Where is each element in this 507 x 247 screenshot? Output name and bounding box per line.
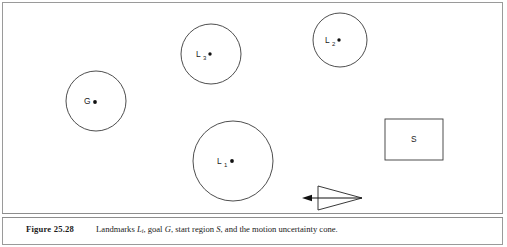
landmark-1-label: L [217, 156, 222, 166]
figure-page: G L 3 L 2 L 1 S [0, 0, 507, 247]
landmark-3-label: L [196, 49, 201, 59]
caption-bar: Figure 25.28Landmarks Li, goal G, start … [2, 218, 503, 245]
landmark-2-subscript: 2 [332, 41, 336, 47]
motion-uncertainty-cone-group [302, 186, 362, 210]
figure-number-label: Figure 25.28 [26, 224, 74, 234]
goal-region-label: G [84, 96, 91, 106]
landmark-2-center-dot [337, 38, 340, 41]
figure-artwork: G L 3 L 2 L 1 S [0, 0, 507, 215]
cone-direction-arrow-icon [302, 195, 312, 201]
start-region-label: S [411, 134, 417, 144]
goal-center-dot [93, 100, 97, 104]
goal-region-group: G [66, 71, 126, 131]
landmark-1-subscript: 1 [224, 162, 228, 168]
landmark-3-center-dot [208, 52, 211, 55]
caption-tail-text: , and the motion uncertainty cone. [221, 224, 338, 234]
landmark-2-label: L [325, 35, 330, 45]
landmark-3-subscript: 3 [203, 55, 207, 61]
landmark-3-group: L 3 [181, 24, 241, 84]
landmark-1-center-dot [230, 159, 234, 163]
figure-caption: Figure 25.28Landmarks Li, goal G, start … [26, 222, 494, 238]
landmark-2-group: L 2 [313, 13, 367, 67]
caption-mid-text-2: , start region [171, 224, 216, 234]
start-region-group: S [385, 119, 443, 160]
caption-mid-text-1: , goal [143, 224, 164, 234]
caption-lead-text: Landmarks [96, 224, 137, 234]
landmark-1-group: L 1 [193, 121, 273, 201]
